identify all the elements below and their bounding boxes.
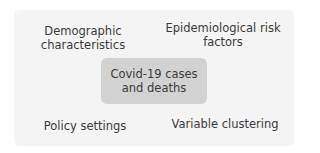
- label-line: Variable clustering: [165, 117, 285, 131]
- demographic-characteristics-label: Demographic characteristics: [33, 24, 133, 52]
- policy-settings-label: Policy settings: [35, 119, 135, 133]
- label-line: factors: [163, 35, 283, 49]
- covid-cases-deaths-box: Covid-19 cases and deaths: [101, 58, 207, 104]
- label-line: Epidemiological risk: [163, 21, 283, 35]
- epidemiological-risk-factors-label: Epidemiological risk factors: [163, 21, 283, 49]
- variable-clustering-label: Variable clustering: [165, 117, 285, 131]
- label-line: Demographic: [33, 24, 133, 38]
- center-line: and deaths: [110, 81, 197, 95]
- center-line: Covid-19 cases: [110, 67, 197, 81]
- label-line: Policy settings: [35, 119, 135, 133]
- label-line: characteristics: [33, 38, 133, 52]
